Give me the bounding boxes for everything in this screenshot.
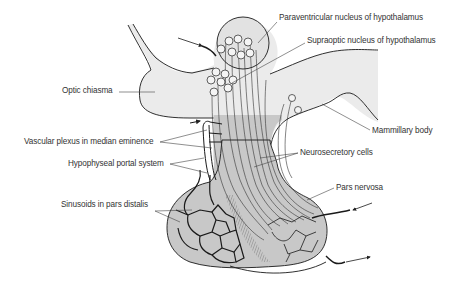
label-hypophyseal-portal-system: Hypophyseal portal system: [68, 159, 164, 169]
label-vascular-plexus: Vascular plexus in median eminence: [24, 137, 153, 147]
label-sinusoids: Sinusoids in pars distalis: [61, 200, 148, 210]
label-mammillary-body: Mammillary body: [372, 126, 432, 136]
label-pars-nervosa: Pars nervosa: [336, 183, 383, 193]
label-supraoptic-nucleus: Supraoptic nucleus of hypothalamus: [307, 36, 436, 46]
label-optic-chiasma: Optic chiasma: [62, 86, 113, 96]
label-paraventricular-nucleus: Paraventricular nucleus of hypothalamus: [279, 13, 423, 23]
optic-chiasma-shape: [128, 24, 215, 118]
pituitary-gland: [167, 140, 327, 268]
label-neurosecretory-cells: Neurosecretory cells: [300, 148, 373, 158]
paraventricular-nucleus: [217, 17, 269, 69]
